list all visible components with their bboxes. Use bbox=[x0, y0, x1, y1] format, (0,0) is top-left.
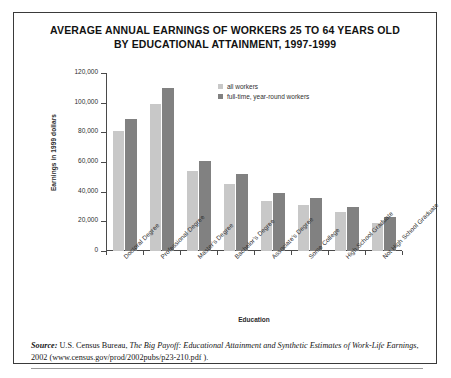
y-tick-label: 20,000 bbox=[78, 216, 98, 223]
y-tick-label: 60,000 bbox=[78, 157, 98, 164]
source-publication-title: The Big Payoff: Educational Attainment a… bbox=[129, 341, 416, 350]
chart-title-line-1: AVERAGE ANNUAL EARNINGS OF WORKERS 25 TO… bbox=[50, 24, 400, 36]
bar bbox=[199, 161, 211, 251]
bar bbox=[224, 184, 236, 251]
y-axis-title: Earnings in 1999 dollars bbox=[50, 88, 57, 218]
chart-title-line-2: BY EDUCATIONAL ATTAINMENT, 1997-1999 bbox=[30, 38, 420, 52]
y-tick-label: 120,000 bbox=[75, 68, 99, 75]
y-tick-label: 100,000 bbox=[75, 98, 99, 105]
source-text-before: U.S. Census Bureau, bbox=[57, 341, 129, 350]
bar-group bbox=[217, 73, 254, 251]
x-axis-category-labels: Doctoral DegreeProfessional DegreeMaster… bbox=[106, 251, 426, 323]
bar bbox=[162, 88, 174, 251]
chart-title: AVERAGE ANNUAL EARNINGS OF WORKERS 25 TO… bbox=[30, 24, 420, 51]
bar bbox=[236, 174, 248, 251]
bar bbox=[125, 119, 137, 251]
footer-divider bbox=[31, 368, 423, 369]
bar-group bbox=[106, 73, 143, 251]
chart-plot-wrapper: Earnings in 1999 dollars all workers ful… bbox=[14, 57, 436, 327]
bars-layer bbox=[106, 73, 402, 251]
plot-area: 020,00040,00060,00080,000100,000120,000 bbox=[106, 73, 402, 251]
bar-group bbox=[143, 73, 180, 251]
bar-group bbox=[328, 73, 365, 251]
bar bbox=[113, 131, 125, 251]
bar bbox=[187, 171, 199, 251]
x-axis-title: Education bbox=[106, 316, 402, 323]
figure-frame: AVERAGE ANNUAL EARNINGS OF WORKERS 25 TO… bbox=[13, 12, 437, 364]
y-tick-label: 40,000 bbox=[78, 187, 98, 194]
y-tick-label: 0 bbox=[94, 246, 98, 253]
source-note: Source: U.S. Census Bureau, The Big Payo… bbox=[31, 340, 423, 363]
source-label: Source: bbox=[31, 341, 57, 350]
y-tick-label: 80,000 bbox=[78, 127, 98, 134]
